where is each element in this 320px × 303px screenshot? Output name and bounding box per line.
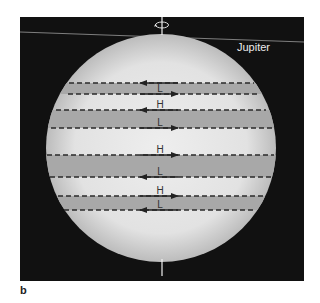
high-pressure-label: H bbox=[156, 99, 163, 110]
low-pressure-label: L bbox=[157, 166, 163, 177]
dark-band bbox=[40, 110, 290, 128]
low-pressure-label: L bbox=[157, 199, 163, 210]
high-pressure-label: H bbox=[156, 144, 163, 155]
jupiter-diagram: LHLHLHL bbox=[0, 0, 320, 303]
panel-label: b bbox=[20, 284, 27, 296]
dark-band bbox=[40, 83, 290, 94]
dark-band bbox=[40, 155, 290, 177]
high-pressure-label: H bbox=[156, 185, 163, 196]
low-pressure-label: L bbox=[157, 117, 163, 128]
planet-name-label: Jupiter bbox=[237, 41, 270, 53]
dark-band bbox=[40, 196, 290, 210]
low-pressure-label: L bbox=[157, 83, 163, 94]
